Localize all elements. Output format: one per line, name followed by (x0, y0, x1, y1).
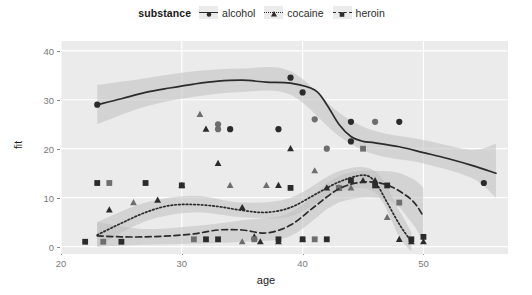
point-cocaine (197, 111, 204, 117)
legend-item-alcohol[interactable]: alcohol (199, 6, 255, 19)
point-heroin (94, 180, 100, 186)
point-heroin (251, 236, 257, 242)
point-cocaine (130, 199, 137, 205)
y-tick-label: 10 (18, 192, 54, 203)
legend-label-cocaine: cocaine (287, 7, 323, 19)
point-heroin (421, 234, 427, 240)
point-cocaine (227, 182, 234, 188)
point-cocaine (203, 126, 210, 132)
point-heroin (288, 185, 294, 191)
y-tick-label: 0 (18, 241, 54, 252)
point-heroin (300, 236, 306, 242)
y-tick-mark (57, 100, 60, 101)
plot-panel (61, 41, 508, 254)
x-tick-label: 30 (177, 258, 188, 269)
point-heroin (82, 239, 88, 245)
point-heroin (215, 236, 221, 242)
legend-key-alcohol-icon (199, 6, 218, 19)
legend-item-cocaine[interactable]: cocaine (264, 6, 323, 19)
x-axis-title: age (0, 274, 532, 286)
point-alcohol (324, 146, 330, 152)
legend-title: substance (138, 7, 191, 19)
point-alcohol (396, 119, 402, 125)
y-tick-mark (57, 198, 60, 199)
confidence-ribbons (97, 67, 496, 251)
y-tick-mark (57, 247, 60, 248)
legend-label-alcohol: alcohol (222, 7, 255, 19)
y-tick-label: 40 (18, 45, 54, 56)
point-heroin (100, 239, 106, 245)
point-alcohol (348, 119, 354, 125)
point-alcohol (481, 180, 487, 186)
point-cocaine (263, 182, 270, 188)
y-tick-mark (57, 51, 60, 52)
point-heroin (396, 200, 402, 206)
y-tick-mark (57, 149, 60, 150)
legend: substance alcohol cocaine (0, 6, 532, 19)
legend-key-heroin-icon (333, 6, 352, 19)
plot-svg (61, 41, 508, 254)
y-tick-label: 30 (18, 94, 54, 105)
point-cocaine (106, 206, 113, 212)
point-heroin (179, 183, 185, 189)
point-alcohol (312, 116, 318, 122)
point-cocaine (275, 182, 282, 188)
y-tick-label: 20 (18, 143, 54, 154)
legend-key-cocaine-icon (264, 6, 283, 19)
x-tick-label: 20 (56, 258, 67, 269)
point-heroin (143, 180, 149, 186)
point-heroin (276, 236, 282, 242)
point-heroin (324, 236, 330, 242)
point-cocaine (215, 160, 222, 166)
x-tick-label: 50 (418, 258, 429, 269)
point-alcohol (287, 75, 293, 81)
legend-item-heroin[interactable]: heroin (333, 6, 385, 19)
legend-label-heroin: heroin (356, 7, 385, 19)
x-tick-label: 40 (297, 258, 308, 269)
point-alcohol (227, 126, 233, 132)
ribbon-alcohol (97, 67, 496, 198)
point-alcohol (300, 89, 306, 95)
point-alcohol (372, 119, 378, 125)
point-heroin (119, 239, 125, 245)
point-alcohol (348, 138, 354, 144)
point-heroin (312, 236, 318, 242)
chart-root: substance alcohol cocaine (0, 0, 532, 295)
point-heroin (106, 180, 112, 186)
point-heroin (203, 236, 209, 242)
point-cocaine (311, 167, 318, 173)
point-alcohol (215, 121, 221, 127)
point-alcohol (275, 126, 281, 132)
point-heroin (191, 236, 197, 242)
point-heroin (360, 146, 366, 152)
